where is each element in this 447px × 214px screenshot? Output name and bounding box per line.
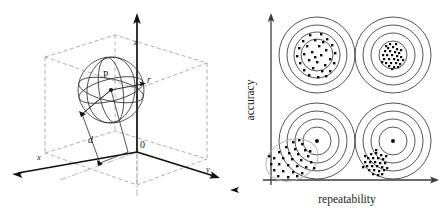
point-p-label: P (103, 70, 108, 80)
d-tick-bottom (97, 160, 103, 166)
origin-label: 0 (140, 139, 145, 150)
distance-measure-group (82, 90, 128, 163)
targets-chart-svg: repeatability accuracy (230, 0, 447, 214)
axis-y-line (137, 152, 214, 176)
dot-cluster-wide (296, 33, 336, 78)
target-bottom-left (259, 103, 355, 189)
axis-x-arrow (12, 172, 23, 179)
bullseye-dot (391, 139, 395, 143)
bullseye-dot (315, 139, 319, 143)
target-bottom-right (355, 103, 431, 179)
target-top-right (355, 17, 431, 93)
panel-accuracy-repeatability: repeatability accuracy (230, 0, 447, 214)
figure-root: P r d z y x 0 (0, 0, 447, 214)
wireframe-box (45, 35, 207, 185)
stray-x-arrow-icon (230, 187, 239, 193)
radius-label: r (147, 75, 151, 85)
y-axis-label: accuracy (244, 79, 257, 120)
panel-3d-sphere: P r d z y x 0 (0, 0, 230, 214)
x-axis-label: repeatability (318, 193, 376, 206)
axis-z-label: z (133, 37, 138, 47)
sphere-diagram-svg: P r d z y x 0 (0, 0, 230, 214)
chart-axis-arrows (268, 13, 439, 183)
dot-cluster-wide-offset (268, 139, 315, 178)
target-top-left (279, 17, 355, 93)
chart-axes (263, 18, 433, 185)
axis-x-label: x (36, 152, 41, 162)
axis-y-label: y (205, 164, 210, 174)
